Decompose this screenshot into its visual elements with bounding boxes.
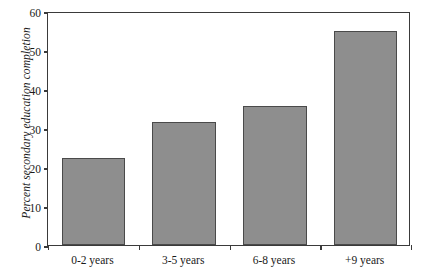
y-axis-tick-mark: [44, 90, 48, 91]
y-axis-tick: 10: [30, 202, 49, 214]
x-axis-tick-mark: [230, 245, 231, 250]
bar: [243, 106, 307, 245]
y-axis-tick-mark: [44, 51, 48, 52]
x-axis-tick-mark: [48, 245, 49, 250]
x-axis-category-label: +9 years: [319, 252, 410, 268]
y-axis-tick: 60: [30, 7, 49, 19]
y-axis-tick-label: 30: [30, 124, 45, 136]
x-axis-tick-mark: [320, 245, 321, 250]
bar: [334, 31, 398, 245]
y-axis-tick-mark: [44, 207, 48, 208]
y-axis-tick: 40: [30, 85, 49, 97]
y-axis-tick-label: 40: [30, 85, 45, 97]
y-axis-tick-label: 0: [35, 241, 44, 253]
y-axis-tick-mark: [44, 12, 48, 13]
x-axis-tick-mark: [139, 245, 140, 250]
bar-chart-figure: Percent secondary education completion 0…: [0, 0, 422, 278]
x-axis-category-label: 3-5 years: [138, 252, 229, 268]
y-axis-tick-mark: [44, 168, 48, 169]
y-axis-tick-label: 10: [30, 202, 45, 214]
y-axis-tick: 50: [30, 46, 49, 58]
bar: [62, 158, 126, 245]
x-axis-category-label: 6-8 years: [229, 252, 320, 268]
plot-area: 0102030405060: [47, 12, 410, 246]
y-axis-tick-label: 50: [30, 46, 45, 58]
y-axis-tick-label: 20: [30, 163, 45, 175]
x-axis-tick-mark: [411, 245, 412, 250]
y-axis-tick-label: 60: [30, 7, 45, 19]
y-axis-tick-mark: [44, 129, 48, 130]
x-axis-category-label: 0-2 years: [47, 252, 138, 268]
y-axis-tick: 30: [30, 124, 49, 136]
y-axis-tick: 20: [30, 163, 49, 175]
bar: [152, 122, 216, 245]
